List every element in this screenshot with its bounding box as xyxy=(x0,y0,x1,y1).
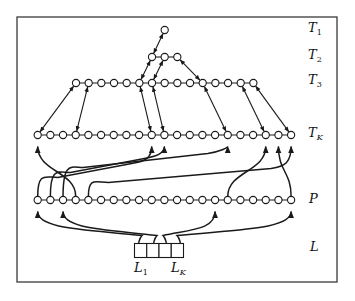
node xyxy=(186,196,193,203)
p-to-tk-curve xyxy=(278,147,291,197)
node xyxy=(237,131,244,138)
node xyxy=(148,131,155,138)
node xyxy=(161,53,168,60)
label-t3: T3 xyxy=(308,72,322,89)
node xyxy=(262,131,269,138)
node xyxy=(110,131,117,138)
node xyxy=(34,131,41,138)
l-array-box xyxy=(135,244,184,258)
l-cell xyxy=(171,244,183,258)
node xyxy=(59,196,66,203)
row-tk xyxy=(34,131,295,138)
node xyxy=(85,79,92,86)
tree-link-arrow xyxy=(153,87,163,131)
node xyxy=(135,131,142,138)
l-to-p-curve xyxy=(177,212,291,252)
tree-link-arrow xyxy=(40,86,73,131)
node xyxy=(161,26,168,33)
node xyxy=(212,79,219,86)
label-p: P xyxy=(308,191,318,206)
label-t1: T1 xyxy=(308,20,322,37)
node xyxy=(72,131,79,138)
node xyxy=(161,196,168,203)
tree-link-arrow xyxy=(204,87,225,132)
node xyxy=(186,131,193,138)
tree-link-arrow xyxy=(140,87,150,131)
node xyxy=(161,79,168,86)
node xyxy=(97,131,104,138)
node xyxy=(123,79,130,86)
node xyxy=(250,79,257,86)
label-lk: LK xyxy=(170,260,187,277)
node xyxy=(224,131,231,138)
node xyxy=(173,196,180,203)
node xyxy=(72,196,79,203)
node xyxy=(72,79,79,86)
label-t2: T2 xyxy=(308,47,322,64)
label-tk: TK xyxy=(308,125,324,142)
node xyxy=(148,79,155,86)
node xyxy=(85,196,92,203)
p-to-tk-curve xyxy=(88,147,291,197)
node xyxy=(97,196,104,203)
node xyxy=(148,53,155,60)
node xyxy=(288,196,295,203)
node xyxy=(186,79,193,86)
row-p xyxy=(34,196,295,203)
row-t2 xyxy=(148,53,181,60)
node xyxy=(161,131,168,138)
node xyxy=(110,79,117,86)
tree-link-arrow xyxy=(154,34,163,54)
tree-hierarchy-diagram: T1 T2 T3 TK P L L1 LK xyxy=(0,0,355,301)
l-cell xyxy=(135,244,147,258)
node xyxy=(47,131,54,138)
node xyxy=(262,196,269,203)
node xyxy=(123,131,130,138)
node xyxy=(237,79,244,86)
node xyxy=(199,131,206,138)
tree-link-arrow xyxy=(141,61,150,80)
node xyxy=(135,196,142,203)
node xyxy=(123,196,130,203)
p-to-tk-curve xyxy=(50,147,164,197)
node xyxy=(249,131,256,138)
l-cell xyxy=(159,244,171,258)
p-to-tk-curve xyxy=(38,147,152,197)
node xyxy=(110,196,117,203)
tree-link-arrow xyxy=(77,87,88,131)
node xyxy=(275,196,282,203)
node xyxy=(288,131,295,138)
label-l: L xyxy=(309,239,319,254)
p-to-tk-curve xyxy=(38,147,76,197)
row-t1 xyxy=(161,26,168,33)
l-cell xyxy=(147,244,159,258)
node xyxy=(199,196,206,203)
node xyxy=(211,131,218,138)
node xyxy=(211,196,218,203)
node xyxy=(136,79,143,86)
row-t3 xyxy=(72,79,257,86)
node xyxy=(85,131,92,138)
tree-link-arrow xyxy=(180,60,200,80)
node xyxy=(148,196,155,203)
node xyxy=(59,131,66,138)
node xyxy=(224,79,231,86)
node xyxy=(34,196,41,203)
node xyxy=(173,131,180,138)
node xyxy=(224,196,231,203)
node xyxy=(98,79,105,86)
node xyxy=(47,196,54,203)
node xyxy=(174,53,181,60)
node xyxy=(174,79,181,86)
node xyxy=(237,196,244,203)
tree-link-arrow xyxy=(154,61,163,80)
label-l1: L1 xyxy=(133,260,148,277)
node xyxy=(249,196,256,203)
node xyxy=(199,79,206,86)
node xyxy=(275,131,282,138)
